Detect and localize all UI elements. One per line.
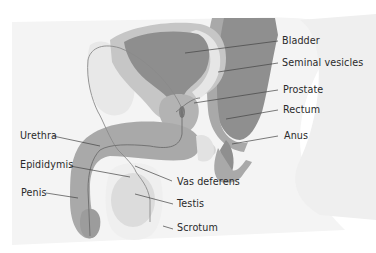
label-urethra: Urethra <box>20 131 57 141</box>
label-penis: Penis <box>21 188 47 198</box>
label-bladder: Bladder <box>282 36 320 46</box>
male-reproductive-anatomy-diagram: Bladder Seminal vesicles Prostate Rectum… <box>0 0 376 253</box>
label-testis: Testis <box>177 199 204 209</box>
label-rectum: Rectum <box>283 105 320 115</box>
label-prostate: Prostate <box>283 85 323 95</box>
label-vas-deferens: Vas deferens <box>177 177 240 187</box>
testis-shape <box>111 173 155 227</box>
label-scrotum: Scrotum <box>177 223 218 233</box>
label-anus: Anus <box>284 131 308 141</box>
label-epididymis: Epididymis <box>20 160 73 170</box>
label-seminal-vesicles: Seminal vesicles <box>282 58 363 68</box>
